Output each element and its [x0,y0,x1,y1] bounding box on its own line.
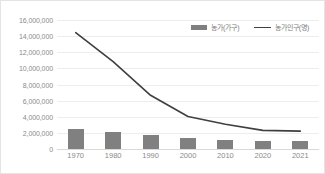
y-axis-tick-label: 12,000,000 [1,49,53,56]
chart-container: 16,000,00014,000,00012,000,00010,000,000… [0,0,325,174]
y-axis-tick-label: 6,000,000 [1,97,53,104]
x-axis-tick-label: 2021 [292,151,309,160]
y-axis-tick-label: 0 [1,146,53,153]
line-swatch-icon [254,27,271,28]
y-axis-tick-label: 2,000,000 [1,129,53,136]
x-axis-tick-label: 1970 [67,151,84,160]
y-axis: 16,000,00014,000,00012,000,00010,000,000… [1,20,53,149]
gridline [57,149,319,150]
legend-item-label: 농가(가구) [211,22,240,32]
y-axis-tick-label: 4,000,000 [1,113,53,120]
chart-legend: 농가(가구) 농가인구(명) [191,22,309,32]
line-path [76,33,301,131]
x-axis-tick-label: 2010 [217,151,234,160]
y-axis-tick-label: 16,000,000 [1,17,53,24]
legend-item-label: 농가인구(명) [275,22,310,32]
legend-item-farm-population[interactable]: 농가인구(명) [254,22,310,32]
plot-area [57,20,319,149]
legend-item-farm-households[interactable]: 농가(가구) [191,22,240,32]
x-axis-tick-label: 1990 [142,151,159,160]
y-axis-tick-label: 8,000,000 [1,81,53,88]
line-series [57,20,319,149]
x-axis-tick-label: 1980 [105,151,122,160]
bar-swatch-icon [191,25,207,30]
x-axis-tick-label: 2020 [255,151,272,160]
y-axis-tick-label: 14,000,000 [1,33,53,40]
x-axis: 1970198019902000201020202021 [57,151,319,165]
x-axis-tick-label: 2000 [180,151,197,160]
y-axis-tick-label: 10,000,000 [1,65,53,72]
